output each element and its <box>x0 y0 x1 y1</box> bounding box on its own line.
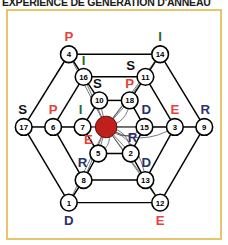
graph-node[interactable]: 13 <box>137 172 154 189</box>
node-letter-label: D <box>64 213 74 228</box>
node-id-label: 9 <box>202 123 207 132</box>
graph-node[interactable]: 14 <box>152 46 169 63</box>
node-id-label: 17 <box>19 123 28 132</box>
node-id-label: 18 <box>125 96 134 105</box>
node-id-label: 5 <box>96 149 101 158</box>
graph-node[interactable]: 6 <box>45 119 62 136</box>
center-marker-icon <box>95 116 117 138</box>
graph-node[interactable]: 1 <box>61 194 78 211</box>
graph-node[interactable]: 15 <box>136 119 153 136</box>
graph-node[interactable]: 10 <box>91 92 108 109</box>
node-id-label: 12 <box>156 199 165 208</box>
node-id-label: 14 <box>156 50 165 59</box>
graph-node[interactable]: 2 <box>122 145 139 162</box>
node-letter-label: P <box>125 76 134 91</box>
node-letter-label: I <box>79 102 83 117</box>
ring-edge <box>160 54 204 127</box>
node-letter-label: I <box>82 53 86 68</box>
node-letter-label: S <box>18 102 27 117</box>
node-letter-label: R <box>128 130 138 145</box>
node-id-label: 11 <box>141 73 150 82</box>
node-letter-label: D <box>142 102 152 117</box>
node-id-label: 2 <box>128 149 133 158</box>
node-letter-label: R <box>78 155 88 170</box>
graph-node[interactable]: 18 <box>121 92 138 109</box>
node-letter-label: I <box>158 29 162 44</box>
graph-node[interactable]: 16 <box>75 68 92 85</box>
node-letter-label: P <box>49 102 58 117</box>
figure-title-bar: EXPÉRIENCE DE GÉNÉRATION D'ANNEAU <box>0 0 228 9</box>
graph-node[interactable]: 5 <box>90 145 107 162</box>
ring-edge <box>24 127 69 203</box>
center-marker-layer <box>95 116 117 138</box>
node-id-label: 7 <box>80 123 85 132</box>
hexagon-graph-diagram: 414179112161163813101871552 PISRDEISPERD… <box>8 11 220 238</box>
node-id-label: 3 <box>173 123 178 132</box>
figure-title: EXPÉRIENCE DE GÉNÉRATION D'ANNEAU <box>2 0 211 8</box>
graph-node[interactable]: 12 <box>152 194 169 211</box>
node-letter-label: S <box>93 76 102 91</box>
node-id-label: 15 <box>140 123 149 132</box>
node-letter-label: S <box>126 58 135 73</box>
node-id-label: 13 <box>141 176 150 185</box>
node-id-label: 6 <box>51 123 56 132</box>
graph-node[interactable]: 3 <box>167 119 184 136</box>
node-id-label: 10 <box>95 96 104 105</box>
node-id-label: 1 <box>67 199 72 208</box>
node-id-label: 16 <box>79 73 88 82</box>
ring-edge <box>24 54 69 127</box>
node-id-label: 4 <box>67 50 72 59</box>
node-letter-label: P <box>64 29 73 44</box>
graph-node[interactable]: 4 <box>61 46 78 63</box>
node-letter-label: D <box>142 155 152 170</box>
figure-frame: 414179112161163813101871552 PISRDEISPERD… <box>6 9 222 240</box>
ring-edge <box>160 127 204 203</box>
node-letter-label: E <box>156 213 165 228</box>
graph-node[interactable]: 8 <box>75 172 92 189</box>
node-letter-label: E <box>170 102 179 117</box>
graph-node[interactable]: 9 <box>196 119 213 136</box>
graph-node[interactable]: 11 <box>137 68 154 85</box>
graph-node[interactable]: 17 <box>15 119 32 136</box>
node-letter-label: E <box>84 132 93 147</box>
node-letter-label: R <box>200 102 210 117</box>
node-id-label: 8 <box>81 176 86 185</box>
